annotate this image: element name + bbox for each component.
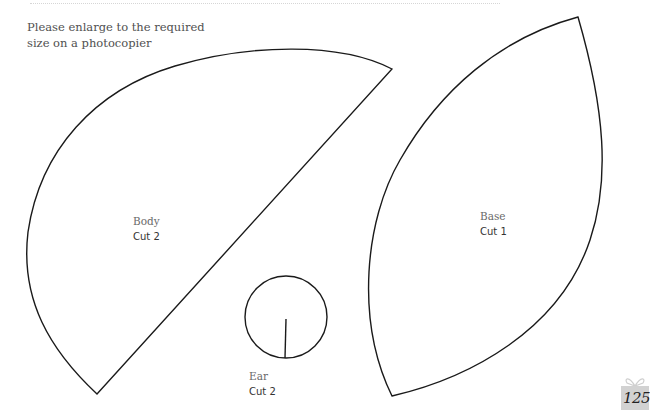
base-piece-name: Base xyxy=(480,209,507,224)
ear-piece-quantity: Cut 2 xyxy=(249,384,276,399)
ear-label: Ear Cut 2 xyxy=(249,369,276,399)
gift-bow-icon xyxy=(623,374,647,386)
page-number: 125 xyxy=(623,389,650,407)
base-piece-outline xyxy=(369,17,603,396)
ear-piece-name: Ear xyxy=(249,369,276,384)
base-piece-quantity: Cut 1 xyxy=(480,224,507,239)
body-piece-name: Body xyxy=(133,214,160,229)
body-label: Body Cut 2 xyxy=(133,214,160,244)
page-number-badge: 125 xyxy=(621,386,649,410)
body-piece-quantity: Cut 2 xyxy=(133,229,160,244)
ear-cut-line xyxy=(285,319,286,358)
body-piece-outline xyxy=(27,49,392,394)
base-label: Base Cut 1 xyxy=(480,209,507,239)
